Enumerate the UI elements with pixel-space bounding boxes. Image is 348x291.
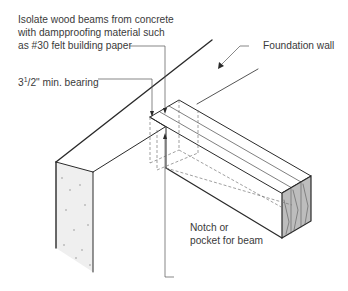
isolate-label-line1: Isolate wood beams from concrete: [18, 13, 174, 26]
notch-label: Notch or pocket for beam: [190, 221, 263, 247]
isolate-label-line2: with dampproofing material such: [18, 26, 174, 39]
diagram-canvas: Isolate wood beams from concrete with da…: [0, 0, 348, 291]
bearing-label-rest: /2" min. bearing: [28, 77, 99, 88]
notch-label-line1: Notch or: [190, 221, 263, 234]
isolate-label: Isolate wood beams from concrete with da…: [18, 13, 174, 52]
foundation-wall-label: Foundation wall: [263, 39, 334, 52]
isolate-label-line3: as #30 felt building paper: [18, 39, 174, 52]
bearing-label: 31/2" min. bearing: [18, 73, 99, 89]
notch-label-line2: pocket for beam: [190, 234, 263, 247]
